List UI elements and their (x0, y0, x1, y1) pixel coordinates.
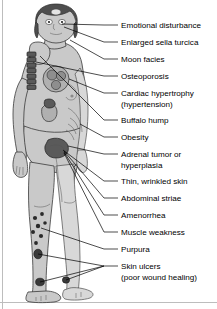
label-obesity: Obesity (121, 133, 149, 142)
heart-chamber-2 (56, 71, 65, 80)
label-emotional-disturbance: Emotional disturbance (121, 21, 202, 30)
vertebral-column-osteoporosis (27, 52, 36, 89)
label-buffalo-hump: Buffalo hump (121, 116, 169, 125)
clinical-features-diagram: Emotional disturbance Enlarged sella tur… (0, 0, 217, 309)
nipple (70, 94, 73, 97)
adrenal-gland-upper (44, 99, 55, 108)
label-cardiac-hypertrophy: Cardiac hypertrophy (121, 89, 195, 98)
label-thin-wrinkled-skin: Thin, wrinkled skin (121, 177, 188, 186)
pupil-left (48, 21, 50, 23)
label-osteoporosis: Osteoporosis (121, 72, 169, 81)
label-group: Emotional disturbance Enlarged sella tur… (121, 21, 202, 282)
foot-near (26, 291, 61, 303)
label-adrenal-tumor: Adrenal tumor or (121, 150, 182, 159)
hand-near (13, 152, 28, 177)
diagram-container: Emotional disturbance Enlarged sella tur… (0, 0, 217, 309)
hair-side-left (35, 22, 39, 38)
body-figure (13, 4, 93, 303)
label-skin-ulcers-line2: (poor wound healing) (121, 273, 197, 282)
label-muscle-weakness: Muscle weakness (121, 228, 185, 237)
foot-far (63, 288, 93, 300)
label-purpura: Purpura (121, 245, 150, 254)
sella-turcica (51, 9, 61, 15)
heart-chamber-3 (51, 80, 60, 89)
label-cardiac-hypertrophy-line2: (hypertension) (121, 100, 173, 109)
pupil-right (61, 21, 63, 23)
label-enlarged-sella-turcica: Enlarged sella turcica (121, 38, 199, 47)
label-abdominal-striae: Abdominal striae (121, 194, 182, 203)
label-skin-ulcers: Skin ulcers (121, 262, 161, 271)
label-adrenal-tumor-line2: hyperplasia (121, 161, 163, 170)
label-amenorrhea: Amenorrhea (121, 211, 166, 220)
label-moon-facies: Moon facies (121, 55, 165, 64)
